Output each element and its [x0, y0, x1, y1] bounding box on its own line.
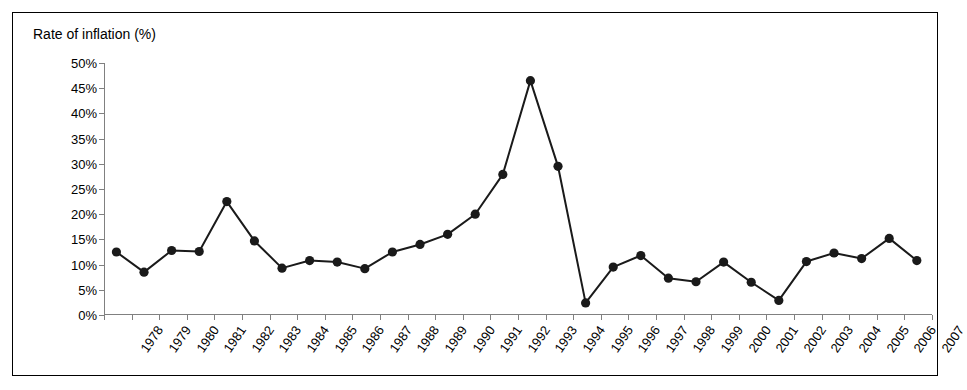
y-axis-tick-label: 40%	[35, 106, 97, 121]
x-axis-tick-label: 1988	[414, 323, 443, 355]
x-axis-tick	[435, 315, 436, 320]
data-point-marker	[250, 236, 259, 245]
x-axis-tick	[822, 315, 823, 320]
x-axis-tick	[849, 315, 850, 320]
x-axis-tick-label: 2007	[938, 323, 967, 355]
data-point-marker	[747, 278, 756, 287]
x-axis-tick	[214, 315, 215, 320]
x-axis-tick	[573, 315, 574, 320]
y-axis-tick-label: 10%	[35, 257, 97, 272]
x-axis-tick-label: 1979	[165, 323, 194, 355]
data-point-marker	[609, 263, 618, 272]
x-axis-tick-label: 1990	[469, 323, 498, 355]
y-axis-tick-label: 30%	[35, 156, 97, 171]
y-axis-tick-label: 35%	[35, 131, 97, 146]
data-point-marker	[802, 257, 811, 266]
data-point-marker	[333, 257, 342, 266]
data-point-marker	[415, 240, 424, 249]
x-axis-tick-label: 2002	[800, 323, 829, 355]
data-point-marker	[360, 264, 369, 273]
data-point-marker	[305, 256, 314, 265]
x-axis-tick	[711, 315, 712, 320]
data-point-marker	[498, 170, 507, 179]
x-axis-tick-label: 1983	[276, 323, 305, 355]
y-axis-tick-label: 5%	[35, 282, 97, 297]
chart-figure: Rate of inflation (%) 0%5%10%15%20%25%30…	[12, 12, 938, 376]
data-point-marker	[885, 234, 894, 243]
data-point-marker	[388, 247, 397, 256]
x-axis-tick-label: 1999	[717, 323, 746, 355]
data-point-marker	[664, 274, 673, 283]
x-axis-tick	[159, 315, 160, 320]
x-axis-tick	[932, 315, 933, 320]
data-point-marker	[277, 264, 286, 273]
x-axis-tick-label: 1986	[359, 323, 388, 355]
x-axis-tick	[187, 315, 188, 320]
x-axis-tick	[242, 315, 243, 320]
x-axis-tick-label: 1984	[303, 323, 332, 355]
x-axis-tick	[352, 315, 353, 320]
x-axis-tick	[766, 315, 767, 320]
data-point-marker	[195, 247, 204, 256]
data-point-marker	[167, 246, 176, 255]
x-axis-tick-label: 1981	[221, 323, 250, 355]
series-line	[116, 81, 916, 303]
x-axis-tick	[546, 315, 547, 320]
data-point-marker	[912, 256, 921, 265]
x-axis-tick	[132, 315, 133, 320]
data-point-marker	[553, 162, 562, 171]
x-axis-tick	[297, 315, 298, 320]
x-axis-tick-label: 1997	[662, 323, 691, 355]
data-point-marker	[222, 197, 231, 206]
data-point-marker	[581, 298, 590, 307]
x-axis-tick-label: 1994	[579, 323, 608, 355]
data-point-marker	[691, 277, 700, 286]
x-axis-tick	[325, 315, 326, 320]
data-point-marker	[526, 76, 535, 85]
y-axis-tick-label: 50%	[35, 56, 97, 71]
y-axis-tick-label: 25%	[35, 182, 97, 197]
data-point-marker	[857, 254, 866, 263]
x-axis-tick	[904, 315, 905, 320]
data-point-marker	[636, 251, 645, 260]
x-axis-tick-label: 1995	[607, 323, 636, 355]
plot-area	[104, 63, 932, 315]
x-axis-tick-label: 2005	[883, 323, 912, 355]
y-axis-tick-label: 20%	[35, 207, 97, 222]
x-axis-tick	[601, 315, 602, 320]
data-point-marker	[443, 230, 452, 239]
y-axis-tick-label: 15%	[35, 232, 97, 247]
y-axis-tick-label: 0%	[35, 308, 97, 323]
data-point-marker	[112, 247, 121, 256]
inflation-line-series	[104, 63, 932, 315]
x-axis-tick-label: 1987	[386, 323, 415, 355]
x-axis-tick-label: 1991	[497, 323, 526, 355]
x-axis-tick-label: 2001	[773, 323, 802, 355]
data-point-marker	[829, 248, 838, 257]
x-axis-tick-label: 2006	[911, 323, 940, 355]
x-axis-tick	[270, 315, 271, 320]
x-axis-tick	[628, 315, 629, 320]
data-point-marker	[719, 257, 728, 266]
x-axis-tick	[794, 315, 795, 320]
data-point-marker	[471, 210, 480, 219]
data-point-marker	[774, 296, 783, 305]
y-axis-labels: 0%5%10%15%20%25%30%35%40%45%50%	[31, 63, 97, 315]
x-axis-tick-label: 2003	[828, 323, 857, 355]
x-axis-tick-label: 1996	[635, 323, 664, 355]
x-axis-tick	[656, 315, 657, 320]
x-axis-tick-label: 2000	[745, 323, 774, 355]
x-axis-tick-label: 1985	[331, 323, 360, 355]
x-axis-tick	[490, 315, 491, 320]
x-axis-tick	[877, 315, 878, 320]
x-axis-tick	[684, 315, 685, 320]
y-axis-title: Rate of inflation (%)	[33, 26, 156, 42]
x-axis-tick-label: 1989	[441, 323, 470, 355]
y-axis-tick-label: 45%	[35, 81, 97, 96]
x-axis-tick-label: 2004	[855, 323, 884, 355]
x-axis-tick-label: 1992	[524, 323, 553, 355]
x-axis-tick	[739, 315, 740, 320]
x-axis-tick	[518, 315, 519, 320]
x-axis-tick	[104, 315, 105, 320]
x-axis-tick-label: 1978	[138, 323, 167, 355]
